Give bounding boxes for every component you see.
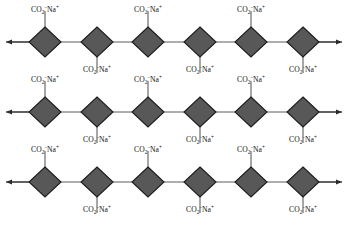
label-base: CO (186, 205, 197, 214)
monomer-unit: CO2−Na+ (287, 167, 319, 215)
carboxylate-label: CO2−Na+ (289, 64, 317, 75)
monomer-diamond-node (29, 27, 61, 57)
label-charge-plus: + (108, 204, 111, 210)
label-base: CO (237, 75, 248, 84)
monomer-diamond-node (184, 97, 216, 127)
label-base: CO (83, 135, 94, 144)
monomer-diamond-node (235, 97, 267, 127)
label-base: CO (83, 205, 94, 214)
label-charge-plus: + (159, 144, 162, 150)
label-charge-plus: + (108, 134, 111, 140)
label-base: CO (31, 5, 42, 14)
label-charge-plus: + (211, 134, 214, 140)
label-charge-plus: + (56, 74, 59, 80)
monomer-unit: CO2−Na+ (81, 97, 113, 145)
monomer-unit: CO2−Na+ (287, 27, 319, 75)
monomer-unit: CO2−Na+ (235, 74, 267, 127)
carboxylate-label: CO2−Na+ (83, 134, 111, 145)
label-charge-plus: + (211, 64, 214, 70)
arrow-left-head (6, 109, 12, 114)
carboxylate-label: CO2−Na+ (289, 204, 317, 215)
label-base: CO (134, 75, 145, 84)
carboxylate-label: CO2−Na+ (83, 204, 111, 215)
monomer-diamond-node (132, 27, 164, 57)
carboxylate-label: CO2−Na+ (83, 64, 111, 75)
monomer-unit: CO2−Na+ (81, 27, 113, 75)
label-charge-plus: + (262, 4, 265, 10)
monomer-diamond-node (235, 167, 267, 197)
monomer-unit: CO2−Na+ (132, 144, 164, 197)
label-charge-plus: + (314, 134, 317, 140)
monomer-unit: CO2−Na+ (184, 27, 216, 75)
label-charge-plus: + (314, 204, 317, 210)
label-charge-plus: + (108, 64, 111, 70)
polymer-chain-svg: CO2−Na+CO2−Na+CO2−Na+CO2−Na+CO2−Na+CO2−N… (0, 0, 348, 226)
carboxylate-label: CO2−Na+ (186, 64, 214, 75)
monomer-diamond-node (81, 167, 113, 197)
label-base: CO (186, 135, 197, 144)
label-base: CO (31, 75, 42, 84)
arrow-left-head (6, 39, 12, 44)
label-base: CO (289, 135, 300, 144)
label-charge-plus: + (262, 74, 265, 80)
monomer-diamond-node (235, 27, 267, 57)
monomer-unit: CO2−Na+ (132, 4, 164, 57)
chemical-structure-diagram: CO2−Na+CO2−Na+CO2−Na+CO2−Na+CO2−Na+CO2−N… (0, 0, 348, 226)
chain-arrow-right (319, 39, 342, 44)
polymer-chain-row-1: CO2−Na+CO2−Na+CO2−Na+CO2−Na+CO2−Na+CO2−N… (6, 4, 342, 75)
carboxylate-label: CO2−Na+ (289, 134, 317, 145)
label-base: CO (289, 65, 300, 74)
label-base: CO (134, 5, 145, 14)
label-base: CO (83, 65, 94, 74)
label-charge-plus: + (159, 74, 162, 80)
monomer-diamond-node (184, 27, 216, 57)
carboxylate-label: CO2−Na+ (186, 134, 214, 145)
label-charge-plus: + (314, 64, 317, 70)
label-charge-plus: + (211, 204, 214, 210)
label-base: CO (31, 145, 42, 154)
label-base: CO (237, 145, 248, 154)
arrow-right-head (336, 109, 342, 114)
label-base: CO (289, 205, 300, 214)
chain-arrow-right (319, 109, 342, 114)
monomer-unit: CO2−Na+ (29, 144, 61, 197)
monomer-diamond-node (81, 97, 113, 127)
polymer-chain-row-3: CO2−Na+CO2−Na+CO2−Na+CO2−Na+CO2−Na+CO2−N… (6, 144, 342, 215)
monomer-diamond-node (81, 27, 113, 57)
label-charge-plus: + (56, 144, 59, 150)
monomer-diamond-node (287, 97, 319, 127)
monomer-unit: CO2−Na+ (235, 144, 267, 197)
monomer-diamond-node (132, 167, 164, 197)
monomer-diamond-node (287, 27, 319, 57)
monomer-unit: CO2−Na+ (287, 97, 319, 145)
monomer-unit: CO2−Na+ (235, 4, 267, 57)
chain-arrow-left (6, 109, 29, 114)
monomer-diamond-node (132, 97, 164, 127)
label-charge-plus: + (262, 144, 265, 150)
arrow-right-head (336, 179, 342, 184)
label-charge-plus: + (56, 4, 59, 10)
monomer-unit: CO2−Na+ (29, 4, 61, 57)
chain-arrow-left (6, 179, 29, 184)
arrow-right-head (336, 39, 342, 44)
monomer-unit: CO2−Na+ (184, 97, 216, 145)
label-base: CO (186, 65, 197, 74)
monomer-diamond-node (29, 97, 61, 127)
chain-arrow-right (319, 179, 342, 184)
polymer-chain-row-2: CO2−Na+CO2−Na+CO2−Na+CO2−Na+CO2−Na+CO2−N… (6, 74, 342, 145)
label-charge-plus: + (159, 4, 162, 10)
label-base: CO (237, 5, 248, 14)
carboxylate-label: CO2−Na+ (186, 204, 214, 215)
monomer-diamond-node (287, 167, 319, 197)
monomer-unit: CO2−Na+ (81, 167, 113, 215)
monomer-unit: CO2−Na+ (29, 74, 61, 127)
monomer-unit: CO2−Na+ (184, 167, 216, 215)
monomer-diamond-node (184, 167, 216, 197)
arrow-left-head (6, 179, 12, 184)
chain-arrow-left (6, 39, 29, 44)
monomer-unit: CO2−Na+ (132, 74, 164, 127)
label-base: CO (134, 145, 145, 154)
monomer-diamond-node (29, 167, 61, 197)
